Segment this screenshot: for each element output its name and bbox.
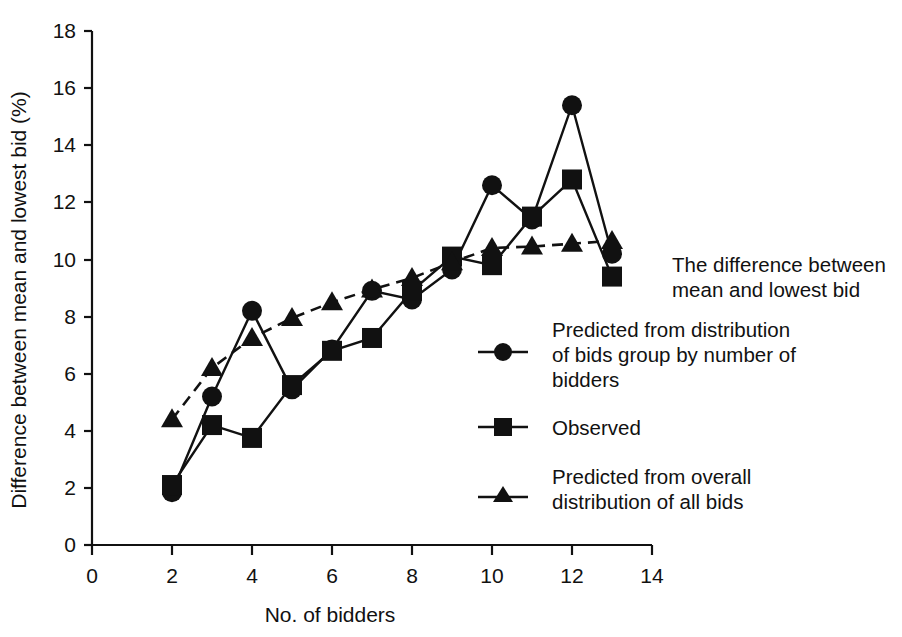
legend: The difference between mean and lowest b… — [478, 253, 886, 513]
x-axis-ticks — [92, 545, 652, 555]
chart-svg: Difference between mean and lowest bid (… — [0, 0, 902, 637]
circle-marker-icon — [482, 175, 502, 195]
circle-marker-icon — [202, 387, 222, 407]
legend-heading-line1: The difference between — [672, 253, 886, 276]
square-marker-icon — [602, 267, 622, 287]
square-marker-icon — [242, 428, 262, 448]
x-tick-label: 10 — [480, 564, 503, 587]
y-axis-title: Difference between mean and lowest bid (… — [7, 91, 30, 509]
triangle-marker-icon — [321, 291, 343, 310]
y-tick-label: 10 — [53, 248, 76, 271]
square-marker-icon — [482, 255, 502, 275]
triangle-marker-icon — [601, 230, 623, 249]
square-marker-icon — [494, 418, 512, 436]
y-tick-label: 16 — [53, 76, 76, 99]
y-axis-tick-labels: 0 2 4 6 8 10 12 14 16 18 — [53, 19, 77, 556]
y-tick-label: 6 — [64, 362, 76, 385]
circle-marker-icon — [562, 95, 582, 115]
y-tick-label: 2 — [64, 476, 76, 499]
square-marker-icon — [162, 475, 182, 495]
square-marker-icon — [322, 341, 342, 361]
square-marker-icon — [562, 169, 582, 189]
chart-figure: Difference between mean and lowest bid (… — [0, 0, 902, 637]
legend-item-predicted-overall[interactable]: Predicted from overall distribution of a… — [478, 465, 751, 513]
x-tick-label: 0 — [86, 564, 98, 587]
y-tick-label: 12 — [53, 190, 76, 213]
triangle-marker-icon — [161, 408, 183, 427]
x-tick-label: 6 — [326, 564, 338, 587]
x-tick-label: 12 — [560, 564, 583, 587]
x-axis-tick-labels: 0 2 4 6 8 10 12 14 — [86, 564, 664, 587]
triangle-marker-icon — [201, 357, 223, 376]
series-line — [172, 180, 612, 486]
legend-label: of bids group by number of — [552, 343, 796, 366]
triangle-marker-icon — [281, 307, 303, 326]
x-tick-label: 14 — [640, 564, 664, 587]
series-line — [172, 241, 612, 420]
series-circle — [162, 95, 622, 502]
circle-marker-icon — [494, 343, 512, 361]
y-tick-label: 18 — [53, 19, 76, 42]
plot-series-layer — [161, 95, 623, 502]
legend-label: Observed — [552, 416, 641, 439]
legend-label: Predicted from overall — [552, 465, 751, 488]
legend-label: bidders — [552, 368, 619, 391]
triangle-marker-icon — [401, 267, 423, 286]
y-tick-label: 0 — [64, 533, 76, 556]
y-tick-label: 8 — [64, 305, 76, 328]
legend-heading: The difference between mean and lowest b… — [672, 253, 886, 301]
y-axis-ticks — [84, 31, 92, 545]
legend-label: Predicted from distribution — [552, 318, 790, 341]
triangle-marker-icon — [493, 486, 513, 502]
square-marker-icon — [202, 415, 222, 435]
y-tick-label: 14 — [53, 133, 77, 156]
x-tick-label: 8 — [406, 564, 418, 587]
x-tick-label: 4 — [246, 564, 258, 587]
x-tick-label: 2 — [166, 564, 178, 587]
legend-item-predicted-by-bidders[interactable]: Predicted from distribution of bids grou… — [478, 318, 796, 391]
square-marker-icon — [282, 375, 302, 395]
x-axis-title: No. of bidders — [265, 603, 396, 626]
legend-heading-line2: mean and lowest bid — [672, 278, 860, 301]
legend-item-observed[interactable]: Observed — [478, 416, 641, 439]
circle-marker-icon — [242, 301, 262, 321]
y-tick-label: 4 — [64, 419, 76, 442]
legend-label: distribution of all bids — [552, 490, 743, 513]
square-marker-icon — [362, 328, 382, 348]
square-marker-icon — [522, 207, 542, 227]
